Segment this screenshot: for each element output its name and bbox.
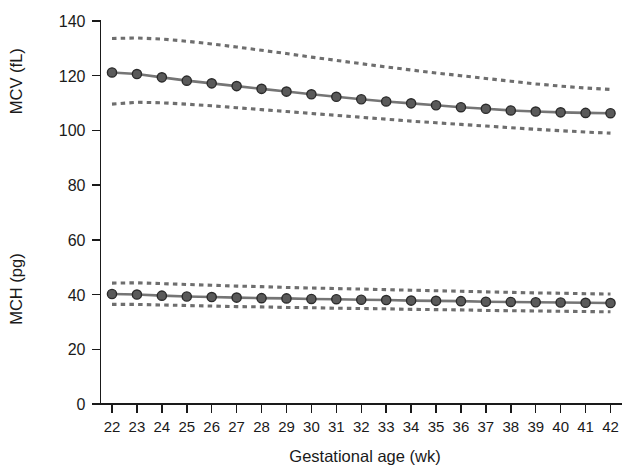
x-tick-label: 36 xyxy=(453,418,470,435)
y-tick-label: 40 xyxy=(68,287,86,304)
x-tick-label: 37 xyxy=(478,418,495,435)
data-point-marker xyxy=(232,293,241,302)
data-point-marker xyxy=(132,290,141,299)
data-point-marker xyxy=(456,297,465,306)
data-point-marker xyxy=(382,295,391,304)
data-point-marker xyxy=(481,297,490,306)
x-tick-label: 30 xyxy=(303,418,320,435)
x-tick-label: 27 xyxy=(228,418,245,435)
chart-figure: 020406080100120140 222324252627282930313… xyxy=(0,0,630,469)
data-point-marker xyxy=(481,104,490,113)
x-tick-label: 22 xyxy=(104,418,121,435)
data-point-marker xyxy=(531,298,540,307)
data-point-marker xyxy=(407,99,416,108)
data-point-marker xyxy=(407,296,416,305)
x-tick-label: 38 xyxy=(502,418,519,435)
data-point-marker xyxy=(307,294,316,303)
x-tick-label: 23 xyxy=(129,418,146,435)
data-point-marker xyxy=(307,90,316,99)
data-point-marker xyxy=(506,106,515,115)
x-tick-label: 33 xyxy=(378,418,395,435)
x-tick-label: 39 xyxy=(527,418,544,435)
data-point-marker xyxy=(157,73,166,82)
data-point-marker xyxy=(257,84,266,93)
data-point-marker xyxy=(357,95,366,104)
x-tick-label: 41 xyxy=(577,418,594,435)
x-axis-ticks: 2223242526272829303132333435363738394041… xyxy=(104,404,619,435)
y-axis-ticks: 020406080100120140 xyxy=(59,13,101,413)
chart-plot-area: 020406080100120140 222324252627282930313… xyxy=(0,0,630,469)
data-point-marker xyxy=(431,101,440,110)
y-axis-title-mcv: MCV (fL) xyxy=(7,48,25,114)
data-point-marker xyxy=(107,289,116,298)
x-tick-label: 42 xyxy=(602,418,619,435)
data-point-marker xyxy=(107,68,116,77)
data-point-marker xyxy=(282,294,291,303)
data-point-marker xyxy=(581,298,590,307)
x-tick-label: 26 xyxy=(203,418,220,435)
data-point-marker xyxy=(531,107,540,116)
data-point-marker xyxy=(606,109,615,118)
data-point-marker xyxy=(606,298,615,307)
data-point-marker xyxy=(182,292,191,301)
x-axis-title: Gestational age (wk) xyxy=(289,447,440,465)
y-axis-title-mch: MCH (pg) xyxy=(7,253,25,325)
x-tick-label: 35 xyxy=(428,418,445,435)
y-tick-label: 80 xyxy=(68,177,86,194)
data-point-marker xyxy=(431,296,440,305)
data-point-marker xyxy=(456,103,465,112)
data-point-marker xyxy=(257,294,266,303)
data-point-marker xyxy=(232,82,241,91)
x-tick-label: 25 xyxy=(178,418,195,435)
data-point-marker xyxy=(182,76,191,85)
data-point-marker xyxy=(207,79,216,88)
x-tick-label: 40 xyxy=(552,418,569,435)
y-tick-label: 0 xyxy=(77,396,86,413)
data-point-marker xyxy=(556,108,565,117)
data-point-marker xyxy=(357,295,366,304)
data-point-marker xyxy=(157,291,166,300)
y-tick-label: 60 xyxy=(68,232,86,249)
y-tick-label: 120 xyxy=(59,68,86,85)
data-point-marker xyxy=(282,87,291,96)
data-point-marker xyxy=(332,295,341,304)
data-point-marker xyxy=(382,97,391,106)
data-point-marker xyxy=(581,108,590,117)
x-tick-label: 31 xyxy=(328,418,345,435)
y-tick-label: 140 xyxy=(59,13,86,30)
data-point-marker xyxy=(332,92,341,101)
x-tick-label: 32 xyxy=(353,418,370,435)
data-point-marker xyxy=(132,69,141,78)
x-tick-label: 28 xyxy=(253,418,270,435)
x-tick-label: 24 xyxy=(154,418,171,435)
y-tick-label: 20 xyxy=(68,341,86,358)
x-tick-label: 29 xyxy=(278,418,295,435)
x-tick-label: 34 xyxy=(403,418,420,435)
data-point-marker xyxy=(506,297,515,306)
data-point-marker xyxy=(556,298,565,307)
y-tick-label: 100 xyxy=(59,122,86,139)
data-point-marker xyxy=(207,292,216,301)
